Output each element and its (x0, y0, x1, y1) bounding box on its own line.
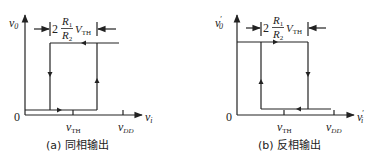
caption-a: (a) 同相输出 (46, 138, 109, 152)
dim-den: R2 (272, 28, 284, 42)
arrow-up-icon (259, 79, 264, 84)
dim-vth: VTH (286, 22, 302, 36)
origin-label: 0 (14, 110, 20, 124)
dim-num: R1 (272, 14, 284, 28)
arrow-right-icon (273, 40, 278, 45)
vth-label: vTH (277, 120, 292, 135)
dim-coef: 2 (52, 22, 58, 36)
y-axis-label: v0 (9, 16, 18, 31)
arrow-right-icon (57, 108, 62, 113)
arrow-down-icon (48, 72, 53, 77)
arrow-left-icon (296, 107, 301, 112)
x-axis-label: v′i (357, 109, 364, 125)
vdd-label: vDD (118, 120, 133, 135)
arrow-down-icon (306, 72, 311, 77)
vdd-label: vDD (326, 120, 341, 135)
y-axis-label: v′0 (215, 15, 223, 31)
arrow-left-icon (81, 41, 86, 46)
dim-vth: VTH (75, 23, 91, 37)
dim-den: R2 (61, 29, 73, 43)
arrow-up-icon (95, 78, 100, 83)
origin-label: 0 (226, 110, 232, 124)
hysteresis-diagram: v0 vi 0 vTH vDD 2 R1 R2 VTH (a) 同相输出 v′0 (0, 0, 372, 165)
figure-a-labels: v0 vi 0 vTH vDD 2 R1 R2 VTH (9, 15, 153, 135)
caption-b: (b) 反相输出 (258, 138, 321, 152)
vth-label: vTH (66, 120, 81, 135)
dim-num: R1 (61, 15, 73, 29)
dim-coef: 2 (263, 21, 269, 35)
x-axis-label: vi (145, 110, 153, 125)
